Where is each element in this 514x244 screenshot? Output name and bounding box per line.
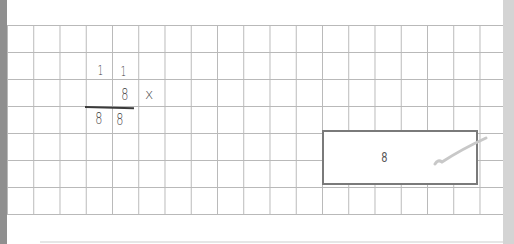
carry-digit: 1 bbox=[121, 64, 126, 78]
multiply-operator: x bbox=[145, 87, 153, 101]
bottom-divider bbox=[40, 241, 503, 243]
multiplier-digit: 8 bbox=[121, 88, 128, 103]
carry-digit: 1 bbox=[98, 63, 103, 77]
result-digit: 8 bbox=[116, 113, 123, 128]
checkmark-icon bbox=[432, 135, 492, 170]
result-digit: 8 bbox=[95, 112, 102, 127]
answer-value: 8 bbox=[381, 149, 387, 165]
left-edge-bar bbox=[0, 0, 7, 244]
right-edge-bar bbox=[503, 0, 514, 244]
grid-paper bbox=[7, 25, 503, 215]
